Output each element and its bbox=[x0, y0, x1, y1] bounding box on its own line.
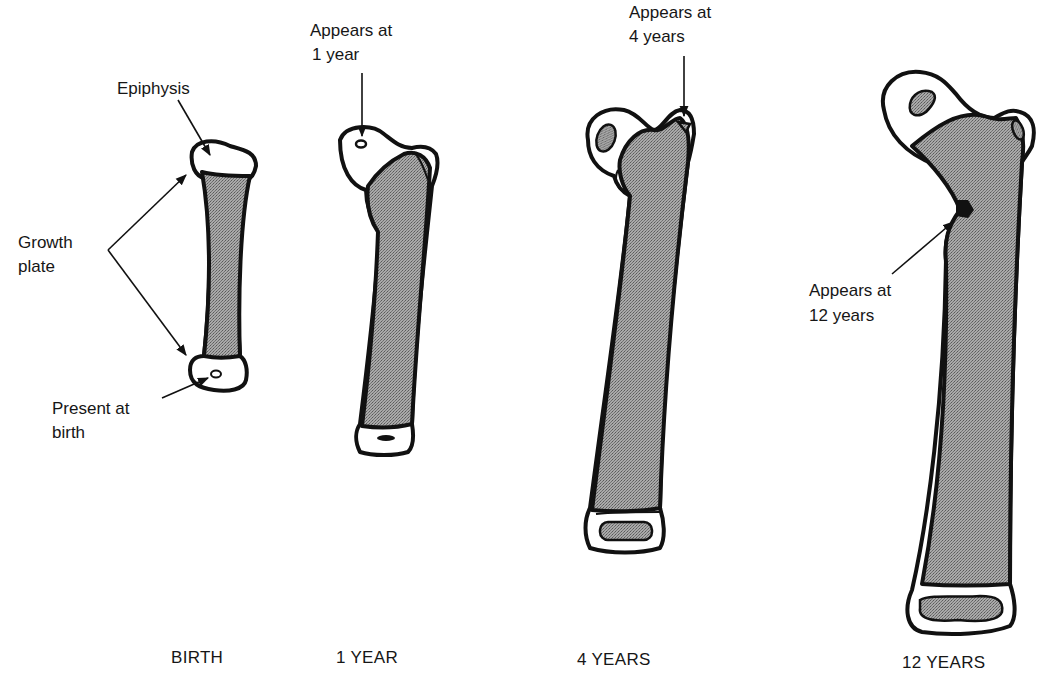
diaphysis-4-years bbox=[592, 118, 689, 511]
ossification-center-distal-12-years bbox=[920, 596, 1002, 621]
diaphysis-birth bbox=[202, 172, 250, 358]
diaphysis-1-year bbox=[362, 153, 430, 428]
label-growth-plate-line2: plate bbox=[18, 256, 55, 278]
label-present-at-birth-line2: birth bbox=[52, 422, 85, 444]
ossification-center-birth bbox=[211, 371, 221, 378]
label-epiphysis: Epiphysis bbox=[117, 78, 190, 100]
label-appears-12-years-line2: 12 years bbox=[809, 305, 874, 327]
arrow-growth-plate-bottom bbox=[108, 250, 186, 355]
caption-birth: BIRTH bbox=[171, 648, 223, 668]
ossification-center-distal-4-years bbox=[600, 522, 652, 540]
label-appears-4-years-line2: 4 years bbox=[629, 26, 685, 48]
caption-1-year: 1 YEAR bbox=[336, 648, 398, 668]
label-appears-4-years-line1: Appears at bbox=[629, 2, 711, 24]
arrow-growth-plate-top bbox=[108, 175, 186, 250]
label-appears-12-years-line1: Appears at bbox=[809, 280, 891, 302]
label-present-at-birth-line1: Present at bbox=[52, 398, 130, 420]
caption-4-years: 4 YEARS bbox=[577, 650, 651, 670]
diagram-canvas bbox=[0, 0, 1050, 681]
bone-1-year bbox=[340, 127, 438, 455]
bone-4-years bbox=[586, 109, 695, 552]
bone-12-years bbox=[883, 72, 1034, 634]
caption-12-years: 12 YEARS bbox=[902, 653, 985, 673]
label-appears-1-year-line2: 1 year bbox=[312, 44, 359, 66]
label-growth-plate-line1: Growth bbox=[18, 232, 73, 254]
ossification-center-distal-1-year bbox=[377, 435, 395, 441]
bone-birth bbox=[190, 141, 256, 390]
label-appears-1-year-line1: Appears at bbox=[310, 20, 392, 42]
ossification-center-femoral-head-1-year bbox=[356, 141, 366, 148]
